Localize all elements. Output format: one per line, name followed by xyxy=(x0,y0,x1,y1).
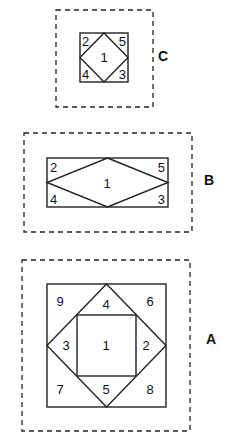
diagram-a-region-1: 1 xyxy=(102,338,109,353)
diagram-a-region-3: 3 xyxy=(62,338,69,353)
diagram-b-label: B xyxy=(204,172,214,188)
diagram-c-region-5: 5 xyxy=(119,34,126,49)
diagram-c-region-3: 3 xyxy=(119,67,126,82)
diagram-a: 1 2 3 4 5 6 7 8 9 A xyxy=(22,260,216,431)
diagram-b: 1 2 3 4 5 B xyxy=(24,133,214,232)
diagram-c-label: C xyxy=(158,48,168,64)
diagram-a-region-2: 2 xyxy=(142,338,149,353)
diagram-b-region-1: 1 xyxy=(103,176,110,191)
diagram-c: 1 2 3 4 5 C xyxy=(56,10,168,107)
diagram-a-label: A xyxy=(206,331,216,347)
quilt-block-diagram: 1 2 3 4 5 C 1 2 3 4 5 B 1 2 3 4 5 6 7 8 … xyxy=(0,0,231,447)
diagram-b-region-4: 4 xyxy=(50,192,57,207)
diagram-a-region-5: 5 xyxy=(102,382,109,397)
diagram-a-region-7: 7 xyxy=(56,382,63,397)
diagram-a-region-4: 4 xyxy=(102,297,109,312)
diagram-c-region-2: 2 xyxy=(82,34,89,49)
diagram-a-region-8: 8 xyxy=(146,382,153,397)
diagram-b-region-3: 3 xyxy=(158,192,165,207)
diagram-b-region-5: 5 xyxy=(158,160,165,175)
diagram-c-region-1: 1 xyxy=(100,50,107,65)
diagram-a-region-9: 9 xyxy=(56,294,63,309)
diagram-b-region-2: 2 xyxy=(50,160,57,175)
diagram-a-region-6: 6 xyxy=(146,294,153,309)
diagram-c-region-4: 4 xyxy=(82,67,89,82)
